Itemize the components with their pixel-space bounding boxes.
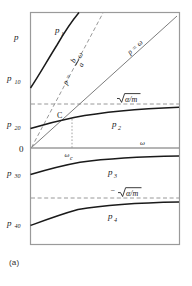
curve-label-p1-base: p [54, 25, 60, 35]
point-c-label: C [57, 111, 62, 120]
asymptote-upper-radicand: α/m [125, 95, 137, 104]
x-tick-omega-c-base: ω [65, 151, 70, 159]
curve-label-p4-sub: 4 [114, 217, 117, 223]
curve-label-p3-sub: 3 [113, 173, 117, 179]
y-tick-p10: p 10 [6, 73, 21, 85]
curve-label-p1-sub: 1 [61, 31, 64, 37]
curve-label-p3-base: p [107, 167, 113, 177]
y-tick-p40-sub: 40 [15, 223, 21, 229]
y-tick-p30-base: p [6, 168, 12, 178]
y-tick-p40-base: p [6, 218, 12, 228]
figure-panel: p p 10 p 20 0 p 30 p 40 ω c ω [0, 0, 192, 286]
curve-label-p4-base: p [107, 211, 113, 221]
asymptote-lower-sign: − [110, 186, 115, 195]
curve-label-p2-base: p [111, 119, 117, 129]
curve-label-p2-sub: 2 [118, 125, 121, 131]
y-tick-p20-sub: 20 [15, 125, 21, 131]
y-tick-zero: 0 [19, 144, 24, 154]
y-tick-p20: p 20 [6, 119, 21, 131]
x-tick-omega-c-sub: c [70, 155, 73, 161]
y-tick-p40: p 40 [6, 218, 21, 230]
y-tick-p10-sub: 10 [15, 79, 21, 85]
x-axis-label: ω [140, 139, 145, 147]
asymptote-lower-radicand: α/m [126, 189, 138, 198]
figure-caption: (a) [9, 258, 19, 267]
y-axis-label: p [13, 32, 19, 42]
y-tick-p30: p 30 [6, 168, 21, 180]
dispersion-plot: p p 10 p 20 0 p 30 p 40 ω c ω [0, 0, 192, 286]
y-tick-p20-base: p [6, 119, 12, 129]
y-tick-p30-sub: 30 [14, 173, 21, 179]
y-tick-p10-base: p [6, 73, 12, 83]
